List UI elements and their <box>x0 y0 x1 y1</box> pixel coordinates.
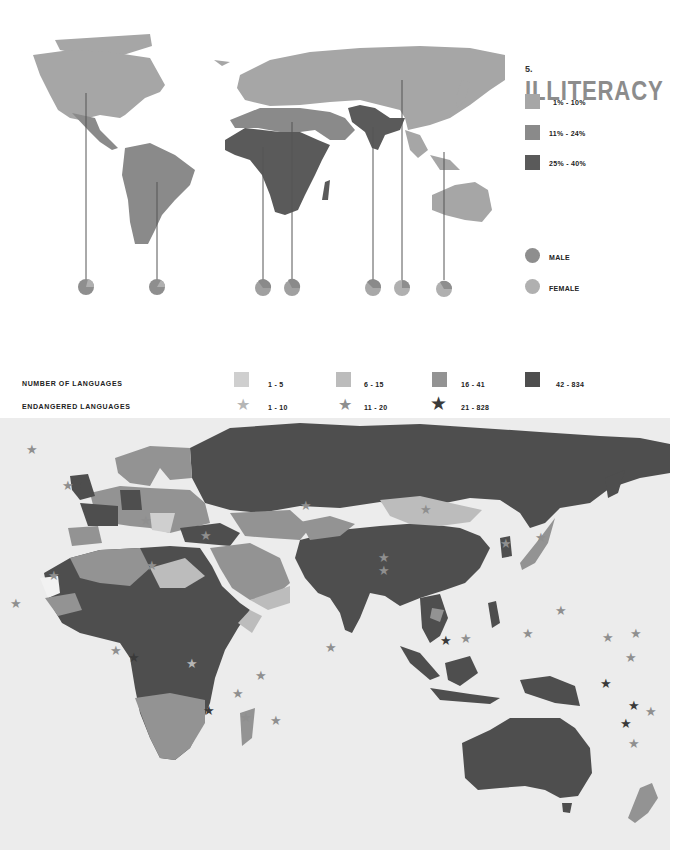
languages-swatch-6-15 <box>336 372 351 387</box>
legend-label: 21 - 828 <box>461 404 489 411</box>
illiteracy-title: 5. ILLITERACY <box>525 58 696 107</box>
legend-label: 11 - 20 <box>364 404 388 411</box>
star-marker: ★ <box>460 631 472 647</box>
female-dot-icon <box>525 279 540 294</box>
star-marker: ★ <box>186 656 198 672</box>
languages-map-svg <box>0 418 670 850</box>
star-marker: ★ <box>270 713 282 729</box>
legend-label: 11% - 24% <box>549 130 586 137</box>
star-marker: ★ <box>232 686 244 702</box>
star-marker: ★ <box>62 478 74 494</box>
number-of-languages-heading: NUMBER OF LANGUAGES <box>22 380 122 387</box>
languages-world-map: ★ ★ ★ ★ ★ ★ ★ ★ ★ ★ ★ ★ ★ ★ ★ ★ ★ ★ ★ ★ … <box>0 418 670 850</box>
endangered-languages-heading: ENDANGERED LANGUAGES <box>22 403 130 410</box>
star-marker: ★ <box>146 558 158 574</box>
legend-label: 42 - 834 <box>556 381 584 388</box>
star-marker: ★ <box>602 630 614 646</box>
legend-label: 1 - 5 <box>268 381 284 388</box>
star-marker: ★ <box>420 502 432 518</box>
star-marker: ★ <box>26 442 38 458</box>
star-marker: ★ <box>522 626 534 642</box>
illiteracy-world-map <box>0 0 520 300</box>
star-marker: ★ <box>620 716 632 732</box>
legend-label: 16 - 41 <box>461 381 485 388</box>
legend-label: 25% - 40% <box>549 160 586 167</box>
star-icon-1-10: ★ <box>236 397 250 413</box>
star-marker: ★ <box>600 676 612 692</box>
star-marker: ★ <box>203 703 215 719</box>
star-marker: ★ <box>240 710 252 726</box>
star-marker: ★ <box>440 633 452 649</box>
star-marker: ★ <box>535 530 547 546</box>
star-marker: ★ <box>555 603 567 619</box>
star-marker: ★ <box>140 513 152 529</box>
star-marker: ★ <box>110 643 122 659</box>
star-marker: ★ <box>500 536 512 552</box>
legend-label: FEMALE <box>549 285 580 292</box>
section-title: ILLITERACY <box>525 76 664 107</box>
languages-swatch-42-834 <box>525 372 540 387</box>
illiteracy-map-svg <box>0 0 520 300</box>
star-marker: ★ <box>630 626 642 642</box>
star-marker: ★ <box>128 650 140 666</box>
star-icon-11-20: ★ <box>338 397 352 413</box>
star-marker: ★ <box>255 668 267 684</box>
star-marker: ★ <box>628 736 640 752</box>
star-marker: ★ <box>378 563 390 579</box>
legend-swatch-1-10 <box>525 94 540 109</box>
legend-label: 6 - 15 <box>364 381 384 388</box>
languages-swatch-16-41 <box>432 372 447 387</box>
languages-swatch-1-5 <box>234 372 249 387</box>
star-marker: ★ <box>645 704 657 720</box>
legend-swatch-25-40 <box>525 155 540 170</box>
star-marker: ★ <box>625 650 637 666</box>
star-marker: ★ <box>628 698 640 714</box>
star-marker: ★ <box>10 596 22 612</box>
star-marker: ★ <box>325 640 337 656</box>
legend-label: 1% - 10% <box>553 99 586 106</box>
star-marker: ★ <box>300 498 312 514</box>
star-icon-21-828: ★ <box>430 396 447 412</box>
legend-label: MALE <box>549 254 570 261</box>
legend-swatch-11-24 <box>525 125 540 140</box>
male-dot-icon <box>525 248 540 263</box>
legend-label: 1 - 10 <box>268 404 288 411</box>
section-number: 5. <box>525 64 533 74</box>
star-marker: ★ <box>200 528 212 544</box>
star-marker: ★ <box>48 568 60 584</box>
